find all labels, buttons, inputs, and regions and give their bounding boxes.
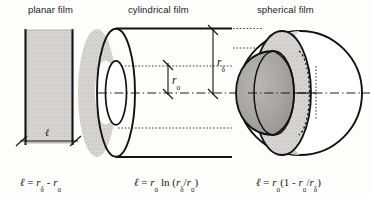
formula-spherical: ℓ = ro(1 - ro/rδ) xyxy=(256,176,321,188)
dimension-label-ell-planar: ℓ xyxy=(45,127,49,138)
dimension-label-ro: ro xyxy=(172,74,180,86)
spherical-film-group xyxy=(236,31,370,155)
dimension-label-rdelta: rδ xyxy=(217,56,225,68)
figure-canvas: planar film cylindrical film spherical f… xyxy=(0,0,370,198)
cylindrical-film-group xyxy=(78,25,246,157)
formula-planar: ℓ = rδ - ro xyxy=(20,176,61,188)
formula-cylindrical: ℓ = ro ln (rδ/ro) xyxy=(134,176,198,188)
diagram-svg xyxy=(0,0,370,198)
